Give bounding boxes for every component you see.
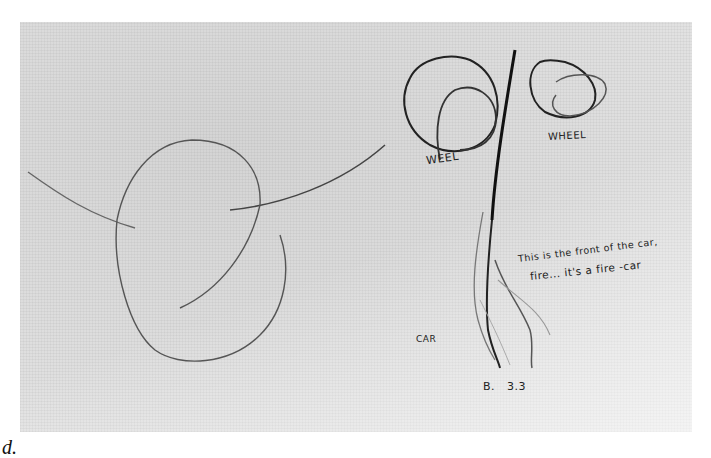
wheel2-inner: [553, 75, 606, 116]
wheel1-outer: [404, 57, 497, 152]
label-wheel-right: WHEEL: [548, 129, 587, 142]
label-car: CAR: [416, 334, 436, 344]
fire-streak-2: [474, 212, 495, 360]
figure-id: B. 3.3: [483, 380, 526, 393]
fire-streak-3: [495, 260, 532, 368]
wheel2-outer: [530, 61, 595, 118]
sketch-lines: [0, 0, 711, 458]
left-arc-stroke: [28, 172, 135, 228]
central-line: [492, 50, 515, 220]
fire-streak-4: [498, 280, 550, 335]
left-loop-stroke: [116, 140, 286, 361]
figure-caption: d.: [2, 436, 17, 458]
wheel1-inner: [437, 88, 496, 160]
fire-streak-1: [487, 220, 500, 368]
